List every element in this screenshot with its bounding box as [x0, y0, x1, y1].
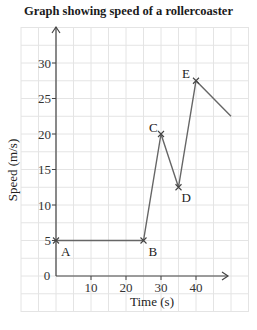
x-tick-label: 10 — [85, 280, 98, 295]
point-label-d: D — [182, 190, 191, 205]
y-axis-label: Speed (m/s) — [5, 139, 20, 201]
axis-ticks: 10203040510152025300 — [38, 56, 203, 296]
x-axis-label: Time (s) — [130, 294, 174, 309]
point-label-b: B — [149, 244, 158, 259]
origin-label: 0 — [44, 268, 51, 283]
point-label-a: A — [61, 244, 71, 259]
chart-canvas: 10203040510152025300 ABCDE Time (s) Spee… — [0, 0, 257, 330]
point-label-e: E — [182, 66, 190, 81]
y-tick-label: 10 — [38, 198, 51, 213]
x-tick-label: 30 — [155, 280, 168, 295]
x-tick-label: 40 — [190, 280, 203, 295]
y-tick-label: 5 — [45, 233, 52, 248]
y-tick-label: 15 — [38, 162, 51, 177]
axes — [52, 27, 228, 280]
y-tick-label: 30 — [38, 56, 51, 71]
data-series — [53, 78, 231, 244]
y-tick-label: 25 — [38, 91, 51, 106]
x-tick-label: 20 — [120, 280, 133, 295]
point-label-c: C — [149, 120, 158, 135]
y-tick-label: 20 — [38, 127, 51, 142]
